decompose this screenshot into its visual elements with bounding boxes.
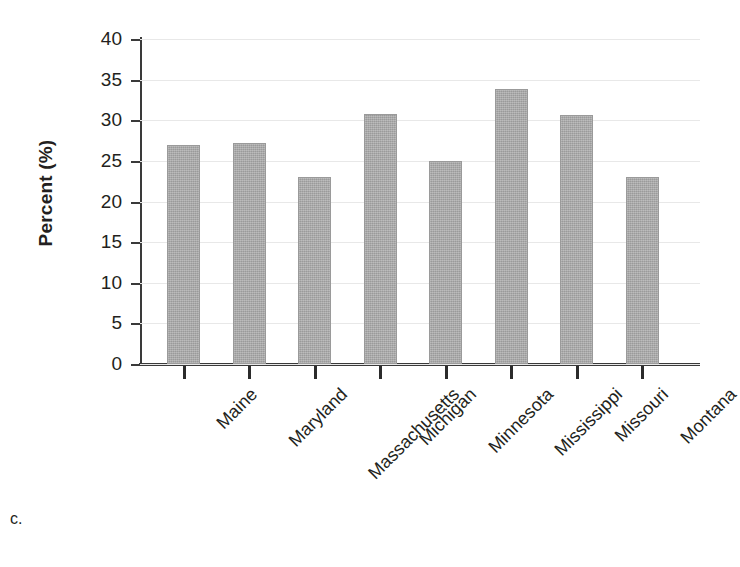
x-tick-mark <box>445 366 448 379</box>
gridline <box>140 39 700 40</box>
bar <box>298 177 331 364</box>
gridline <box>140 202 700 203</box>
bar <box>429 161 462 364</box>
x-tick-mark <box>576 366 579 379</box>
y-tick-label: 15 <box>78 232 122 251</box>
y-tick-label: 30 <box>78 110 122 129</box>
y-tick-label: 10 <box>78 273 122 292</box>
bar <box>167 145 200 364</box>
bar <box>560 115 593 364</box>
bar-chart-figure: Percent (%) 4035302520151050 MaineMaryla… <box>0 0 740 567</box>
y-tick-label: 20 <box>78 192 122 211</box>
x-tick-mark <box>248 366 251 379</box>
gridline <box>140 323 700 324</box>
y-axis-label: Percent (%) <box>35 103 57 283</box>
x-category-label: Montana <box>677 384 740 448</box>
x-tick-mark <box>183 366 186 379</box>
y-tick-label: 25 <box>78 151 122 170</box>
x-category-label: Minnesota <box>484 384 558 458</box>
y-tick-label: 5 <box>78 313 122 332</box>
plot-area <box>140 39 700 364</box>
bar <box>495 89 528 364</box>
x-tick-mark <box>641 366 644 379</box>
y-tick-label: 0 <box>78 354 122 373</box>
gridline <box>140 242 700 243</box>
x-tick-mark <box>314 366 317 379</box>
x-category-label: Mississippi <box>550 384 626 460</box>
x-tick-mark <box>510 366 513 379</box>
gridline <box>140 120 700 121</box>
gridline <box>140 283 700 284</box>
gridline <box>140 364 700 365</box>
gridline <box>140 80 700 81</box>
gridline <box>140 161 700 162</box>
x-category-label: Maine <box>212 384 262 434</box>
x-category-label: Maryland <box>285 384 352 451</box>
panel-letter: c. <box>10 510 22 528</box>
bar <box>233 143 266 364</box>
y-tick-label: 40 <box>78 29 122 48</box>
y-tick-label: 35 <box>78 70 122 89</box>
x-category-label: Massachusetts <box>364 384 464 484</box>
bar <box>626 177 659 364</box>
x-tick-mark <box>379 366 382 379</box>
bar <box>364 114 397 364</box>
